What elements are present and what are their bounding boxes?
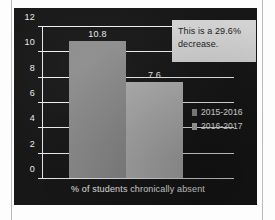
y-tick-mark [38, 178, 42, 179]
y-tick-label: 2 [30, 139, 35, 149]
y-tick-mark [38, 51, 42, 52]
y-tick-mark [38, 102, 42, 103]
y-tick-mark [38, 77, 42, 78]
chart-legend: 2015-2016 2016-2017 [192, 105, 243, 133]
page-border-left [11, 0, 12, 220]
bar-value-label: 7.6 [148, 70, 161, 80]
bar-value-label: 10.8 [88, 29, 106, 39]
y-axis-line [42, 27, 43, 179]
x-axis-line [42, 178, 234, 179]
bar: 7.6 [126, 82, 183, 178]
legend-label: 2016-2017 [201, 121, 243, 131]
y-tick-label: 4 [30, 113, 35, 123]
legend-item: 2015-2016 [192, 105, 243, 119]
y-tick-label: 8 [30, 63, 35, 73]
document-page: 121086420 10.87.6 % of students chronica… [0, 0, 275, 220]
y-tick-mark [38, 26, 42, 27]
page-border-right [262, 0, 263, 220]
y-tick-mark [38, 127, 42, 128]
y-tick-mark [38, 153, 42, 154]
y-tick-label: 6 [30, 88, 35, 98]
bar: 10.8 [69, 41, 126, 178]
bar-chart-figure: 121086420 10.87.6 % of students chronica… [14, 8, 257, 205]
legend-label: 2015-2016 [201, 107, 243, 117]
legend-swatch-icon [192, 123, 197, 130]
legend-swatch-icon [192, 109, 197, 116]
y-tick-label: 0 [30, 164, 35, 174]
y-tick-label: 12 [25, 12, 35, 22]
y-tick-label: 10 [25, 37, 35, 47]
legend-item: 2016-2017 [192, 119, 243, 133]
annotation-callout: This is a 29.6% decrease. [172, 20, 256, 62]
x-axis-label: % of students chronically absent [42, 184, 234, 194]
